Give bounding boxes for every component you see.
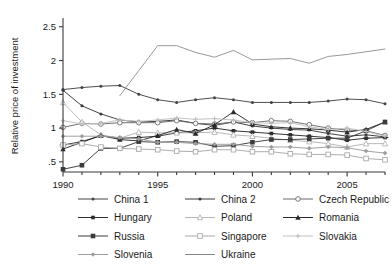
marker-square-open — [326, 152, 331, 157]
marker-dot — [199, 198, 202, 201]
marker-plus — [193, 117, 198, 122]
x-tick-label: 2005 — [337, 179, 358, 190]
marker-x-filled — [90, 216, 97, 220]
legend-item-romania[interactable]: Romania — [283, 212, 359, 223]
marker-dot — [118, 84, 121, 87]
marker-dot — [99, 112, 102, 115]
series-line — [63, 86, 385, 104]
marker-x-filled — [363, 136, 370, 140]
marker-square-open — [307, 152, 312, 157]
legend-label: China 1 — [114, 194, 149, 205]
marker-square-filled — [269, 137, 274, 142]
relative-price-of-investment-line-chart: .511.522.51990199520002005Relative price… — [0, 0, 392, 270]
marker-square-open — [118, 146, 123, 151]
marker-square-open — [250, 149, 255, 154]
marker-dot — [270, 101, 273, 104]
marker-diamond — [80, 134, 85, 139]
y-tick-label: 2.5 — [43, 21, 56, 32]
legend-item-china-2[interactable]: China 2 — [185, 194, 256, 205]
legend-label: Slovenia — [114, 249, 153, 260]
marker-dot — [80, 86, 83, 89]
series-line — [63, 102, 385, 147]
marker-diamond — [269, 145, 274, 150]
marker-dot — [99, 85, 102, 88]
legend-label: Hungary — [114, 212, 152, 223]
y-tick-label: 1.5 — [43, 89, 56, 100]
series-slovenia — [61, 134, 388, 155]
marker-dot — [156, 98, 159, 101]
marker-dot — [308, 101, 311, 104]
marker-dot — [194, 98, 197, 101]
marker-dot — [346, 98, 349, 101]
legend-item-singapore[interactable]: Singapore — [185, 231, 267, 242]
plot-area — [60, 46, 389, 172]
legend-item-china-1[interactable]: China 1 — [78, 194, 149, 205]
legend-label: Ukraine — [221, 249, 256, 260]
marker-dot — [251, 101, 254, 104]
series-romania — [60, 109, 387, 151]
legend-label: Poland — [221, 212, 252, 223]
marker-diamond — [250, 144, 255, 149]
marker-square-open — [174, 149, 179, 154]
marker-square-open — [364, 156, 369, 161]
legend-item-russia[interactable]: Russia — [78, 231, 145, 242]
marker-square-open — [231, 147, 236, 152]
legend-item-ukraine[interactable]: Ukraine — [185, 249, 256, 260]
y-tick-label: 2 — [51, 55, 56, 66]
x-tick-label: 1995 — [147, 179, 168, 190]
legend-item-hungary[interactable]: Hungary — [78, 212, 152, 223]
marker-x-filled — [287, 133, 294, 137]
marker-triangle-filled — [231, 109, 236, 114]
marker-dot — [327, 132, 330, 135]
series-line — [120, 46, 385, 96]
marker-dot — [92, 198, 95, 201]
marker-dot — [175, 101, 178, 104]
series-ukraine — [120, 46, 385, 96]
legend-item-slovakia[interactable]: Slovakia — [283, 231, 357, 242]
marker-dot — [289, 101, 292, 104]
series-poland — [60, 100, 387, 150]
legend-label: Russia — [114, 231, 145, 242]
marker-square-open — [345, 153, 350, 158]
legend-item-czech-republic[interactable]: Czech Republic — [283, 194, 389, 205]
legend-label: Romania — [319, 212, 359, 223]
marker-square-open — [80, 141, 85, 146]
marker-square-open — [288, 151, 293, 156]
x-tick-label: 1990 — [52, 179, 73, 190]
marker-diamond — [307, 146, 312, 151]
marker-square-filled — [288, 137, 293, 142]
marker-square-filled — [307, 137, 312, 142]
marker-square-filled — [250, 140, 255, 145]
marker-square-open — [99, 145, 104, 150]
marker-dot — [80, 104, 83, 107]
legend-label: Slovakia — [319, 231, 357, 242]
marker-dot — [232, 98, 235, 101]
marker-square-filled — [345, 136, 350, 141]
legend-label: Singapore — [221, 231, 267, 242]
marker-circle-open — [193, 121, 198, 126]
marker-dot — [327, 100, 330, 103]
marker-square-open — [193, 149, 198, 154]
marker-square-open — [269, 149, 274, 154]
marker-square-filled — [383, 120, 388, 125]
marker-dot — [384, 102, 387, 105]
chart-legend: China 1China 2Czech RepublicHungaryPolan… — [78, 194, 389, 261]
marker-square-filled — [326, 136, 331, 141]
legend-item-slovenia[interactable]: Slovenia — [78, 249, 153, 260]
marker-square-open — [155, 147, 160, 152]
marker-circle-open — [296, 197, 301, 202]
marker-square-open — [136, 147, 141, 152]
series-china-1 — [62, 84, 387, 105]
marker-square-open — [212, 147, 217, 152]
legend-label: China 2 — [221, 194, 256, 205]
marker-diamond — [288, 145, 293, 150]
x-tick-label: 2000 — [242, 179, 263, 190]
marker-dot — [365, 133, 368, 136]
marker-diamond — [364, 149, 369, 154]
marker-plus — [296, 234, 301, 239]
marker-square-filled — [91, 234, 96, 239]
marker-diamond — [91, 252, 96, 257]
legend-item-poland[interactable]: Poland — [185, 212, 252, 223]
chart-container: .511.522.51990199520002005Relative price… — [0, 0, 392, 270]
marker-square-open — [383, 158, 388, 163]
